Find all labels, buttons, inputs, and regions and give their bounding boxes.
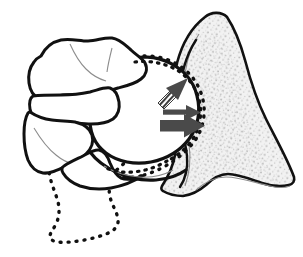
thick-arrow-shaft [160,120,187,132]
thin-arrow-shaft [163,110,189,115]
figure-root [0,0,303,257]
anatomy-illustration [0,0,303,257]
